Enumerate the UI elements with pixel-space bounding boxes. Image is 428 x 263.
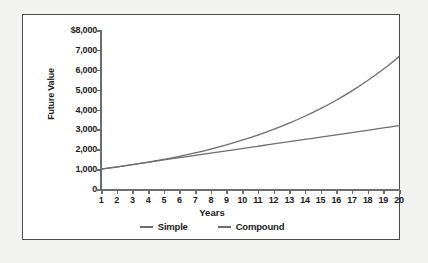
page-background: Future Value $8,0007,0006,0005,0004,0003… <box>0 0 428 263</box>
y-axis-tick-mark <box>96 129 100 131</box>
legend-label: Compound <box>236 221 285 232</box>
y-axis-tick-mark <box>96 169 100 171</box>
legend-label: Simple <box>158 221 188 232</box>
x-axis-title: Years <box>23 207 401 218</box>
y-axis-tick-mark <box>96 70 100 72</box>
series-line-compound <box>101 57 399 170</box>
series-line-simple <box>101 126 399 169</box>
y-axis-tick-mark <box>96 149 100 151</box>
y-axis-tick-mark <box>96 50 100 52</box>
legend-swatch-icon <box>140 226 153 228</box>
y-axis-tick-mark <box>96 90 100 92</box>
y-axis-tick-mark <box>96 30 100 32</box>
legend-item-simple[interactable]: Simple <box>140 221 188 232</box>
y-axis-tick-mark <box>96 189 100 191</box>
chart-frame: Future Value $8,0007,0006,0005,0004,0003… <box>22 14 400 240</box>
chart-legend: SimpleCompound <box>23 221 401 232</box>
legend-item-compound[interactable]: Compound <box>218 221 285 232</box>
y-axis-tick-mark <box>96 110 100 112</box>
legend-swatch-icon <box>218 226 231 228</box>
